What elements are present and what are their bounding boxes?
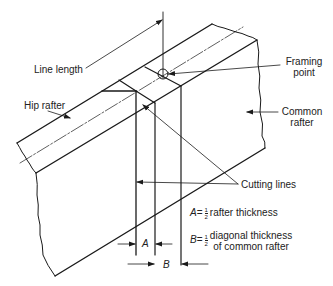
framing-point-leader [169,65,280,74]
legend-a: A=12rafter thickness [190,207,278,220]
cutting-lines-top [102,67,181,103]
common-rafter-label: Common rafter [278,106,326,128]
line-length-label: Line length [34,64,83,75]
cutting-lines-label: Cutting lines [241,179,296,190]
framing-point-label: Framing point [282,56,326,78]
line-length-indicator [86,12,163,78]
dimension-a-label: A [142,238,149,249]
cutting-lines-leaders [137,105,238,184]
fraction-half: 12 [205,207,208,220]
hip-rafter-label: Hip rafter [24,100,65,111]
rafter-top-face [17,24,257,173]
legend-b: B=12diagonal thicknessof common rafter [190,230,292,252]
fraction-half: 12 [205,234,208,247]
dimension-b-label: B [163,259,170,270]
